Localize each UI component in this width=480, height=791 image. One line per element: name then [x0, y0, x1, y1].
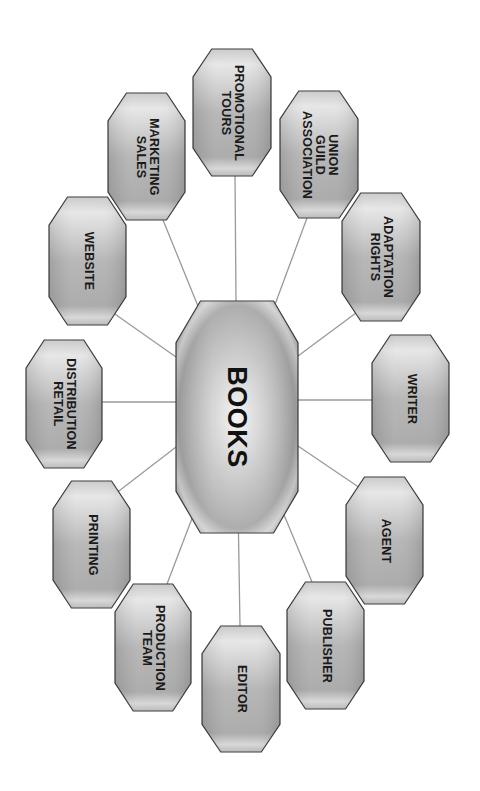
- node-label: PROMOTIONALTOURS: [219, 65, 245, 161]
- node-label-line: SALES: [134, 118, 147, 196]
- node-editor: EDITOR: [202, 626, 280, 752]
- books-hub-diagram: PROMOTIONALTOURS UNIONGUILDASSOCIATION A…: [0, 0, 480, 791]
- node-writer: WRITER: [372, 335, 449, 462]
- node-label-line: PRINTING: [85, 514, 98, 575]
- node-label-line: RETAIL: [51, 358, 64, 449]
- node-distribution-retail: DISTRIBUTIONRETAIL: [26, 340, 102, 468]
- node-label: EDITOR: [235, 665, 248, 713]
- node-label-line: DISTRIBUTION: [64, 358, 77, 449]
- node-label-line: TEAM: [140, 604, 153, 690]
- connector-line-promotional-tours: [235, 176, 236, 301]
- node-label-line: GUILD: [313, 110, 326, 198]
- node-label-line: ASSOCIATION: [300, 110, 313, 198]
- node-label-line: BOOKS: [223, 366, 251, 468]
- node-marketing-sales: MARKETINGSALES: [108, 93, 185, 220]
- node-label-line: EDITOR: [235, 665, 248, 713]
- center-node-books: BOOKS: [176, 301, 298, 533]
- node-label: MARKETINGSALES: [134, 118, 160, 196]
- node-label: ADAPTATIONRIGHTS: [368, 216, 394, 298]
- node-printing: PRINTING: [53, 481, 130, 608]
- node-label-line: ADAPTATION: [381, 216, 394, 298]
- node-label-line: UNION: [326, 110, 339, 198]
- node-adaptation-rights: ADAPTATIONRIGHTS: [342, 193, 420, 321]
- node-label: PRINTING: [85, 514, 98, 575]
- node-label: PRODUCTIONTEAM: [140, 604, 166, 690]
- node-label: UNIONGUILDASSOCIATION: [300, 110, 339, 198]
- node-label: PUBLISHER: [319, 608, 332, 682]
- node-label-line: PUBLISHER: [319, 608, 332, 682]
- node-label: WRITER: [404, 373, 417, 424]
- node-label-line: AGENT: [378, 518, 391, 563]
- node-promotional-tours: PROMOTIONALTOURS: [193, 49, 271, 176]
- node-label-line: MARKETING: [147, 118, 160, 196]
- node-label-line: RIGHTS: [368, 216, 381, 298]
- node-publisher: PUBLISHER: [287, 582, 364, 709]
- node-label-line: PROMOTIONAL: [232, 65, 245, 161]
- node-label-line: TOURS: [219, 65, 232, 161]
- node-label-line: WRITER: [404, 373, 417, 424]
- node-label: DISTRIBUTIONRETAIL: [51, 358, 77, 449]
- node-label-line: PRODUCTION: [153, 604, 166, 690]
- node-label-line: WEBSITE: [81, 232, 94, 290]
- node-label: BOOKS: [223, 366, 251, 468]
- node-label: AGENT: [378, 518, 391, 563]
- node-label: WEBSITE: [81, 232, 94, 290]
